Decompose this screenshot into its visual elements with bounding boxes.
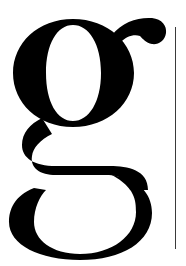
letter-g-glyph — [0, 0, 186, 266]
glyph-specimen: g — [0, 0, 186, 266]
vertical-rule — [175, 27, 176, 249]
